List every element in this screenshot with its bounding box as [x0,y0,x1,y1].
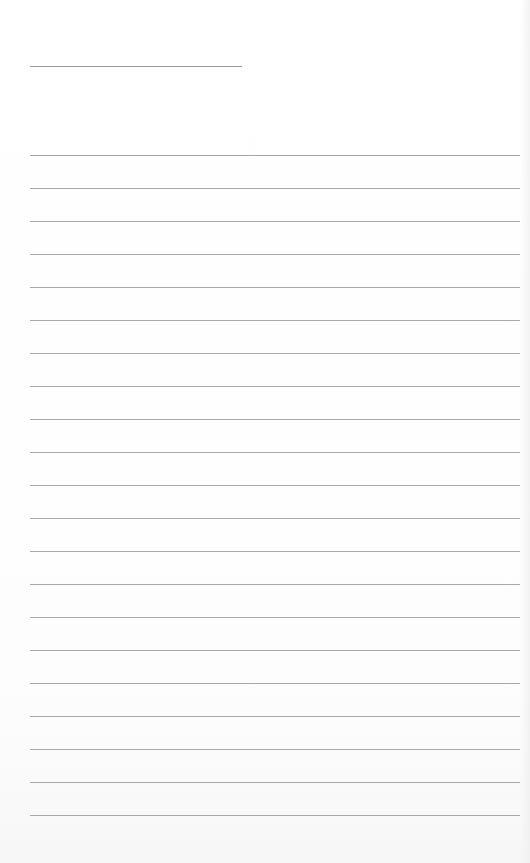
ruled-line [30,419,520,420]
ruled-line [30,287,520,288]
title-line [30,66,242,67]
lined-paper-page [0,0,530,863]
ruled-line [30,518,520,519]
ruled-line [30,452,520,453]
ruled-line [30,650,520,651]
ruled-line [30,749,520,750]
ruled-line [30,155,520,156]
ruled-line [30,320,520,321]
ruled-line [30,221,520,222]
ruled-line [30,254,520,255]
ruled-line [30,485,520,486]
ruled-line [30,617,520,618]
ruled-line [30,584,520,585]
ruled-line [30,683,520,684]
ruled-line [30,716,520,717]
ruled-line [30,188,520,189]
ruled-line [30,551,520,552]
ruled-line [30,782,520,783]
ruled-line [30,815,520,816]
ruled-line [30,353,520,354]
page-edge-shadow [520,0,530,863]
ruled-line [30,386,520,387]
